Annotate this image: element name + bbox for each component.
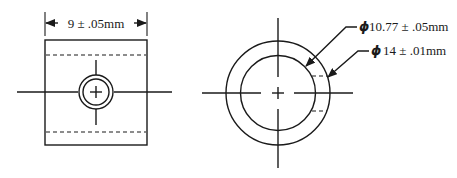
side-view: 9 ± .05mm — [17, 12, 172, 145]
diameter-symbol-inner: ϕ — [359, 19, 369, 34]
width-dimension-label: 9 ± .05mm — [68, 16, 125, 31]
diameter-symbol-outer: ϕ — [371, 43, 381, 58]
inner-diameter-leader — [306, 27, 357, 66]
end-view: ϕ 10.77 ± .05mm ϕ 14 ± .01mm — [202, 18, 448, 168]
outer-diameter-leader — [328, 51, 369, 77]
inner-diameter-label: 10.77 ± .05mm — [369, 19, 448, 34]
technical-drawing: 9 ± .05mm — [0, 0, 457, 178]
outer-diameter-label: 14 ± .01mm — [383, 43, 446, 58]
